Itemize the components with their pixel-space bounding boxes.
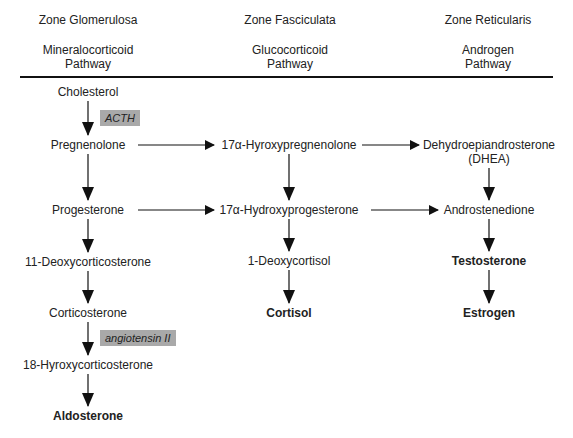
cortisol-node: Cortisol	[266, 306, 311, 320]
acth-regulator-label: ACTH	[100, 110, 140, 126]
dhea-node-line2: (DHEA)	[468, 152, 509, 166]
hydroxyprogesterone-node: 17α-Hydroxyprogesterone	[219, 203, 358, 217]
hydroxycorticosterone-node: 18-Hyroxycorticosterone	[23, 358, 153, 372]
deoxycorticosterone-node: 11-Deoxycorticosterone	[25, 255, 151, 269]
pathway-arrows	[0, 0, 573, 438]
cholesterol-node: Cholesterol	[58, 85, 119, 99]
testosterone-node: Testosterone	[452, 254, 526, 268]
progesterone-node: Progesterone	[52, 203, 124, 217]
estrogen-node: Estrogen	[463, 306, 515, 320]
pregnenolone-node: Pregnenolone	[51, 138, 126, 152]
androstenedione-node: Androstenedione	[444, 203, 535, 217]
angiotensin-regulator-label: angiotensin II	[100, 330, 176, 346]
aldosterone-node: Aldosterone	[53, 409, 123, 423]
corticosterone-node: Corticosterone	[49, 306, 127, 320]
dhea-node-line1: Dehydroepiandrosterone	[423, 138, 555, 152]
deoxycortisol-node: 1-Deoxycortisol	[248, 254, 331, 268]
hydroxypregnenolone-node: 17α-Hyroxypregnenolone	[221, 138, 356, 152]
